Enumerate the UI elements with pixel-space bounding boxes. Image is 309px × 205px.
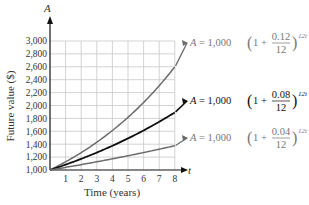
eq-exponent: 12t (298, 90, 308, 98)
paren-open: ( (247, 34, 252, 52)
x-tick-label: 6 (141, 174, 146, 184)
x-tick-label: 7 (157, 174, 162, 184)
x-tick-label: 3 (94, 174, 99, 184)
y-tick-label: 1,000 (26, 165, 48, 175)
x-axis-arrow-icon (181, 167, 188, 173)
eq-lhs: A = 1,000 (189, 37, 231, 48)
paren-open: ( (247, 92, 252, 110)
x-tick-label: 1 (63, 174, 68, 184)
y-tick-label: 2,600 (26, 62, 48, 72)
eq-one-plus: 1 + (253, 37, 267, 48)
y-axis-var: A (43, 2, 51, 14)
equation-label-0.04: A = 1,000(1 + 0.0412)12t (176, 126, 308, 150)
y-tick-labels: 1,0001,2001,4001,6001,8002,0002,2002,400… (26, 36, 48, 175)
eq-denominator: 12 (276, 139, 287, 150)
paren-close: ) (292, 92, 297, 110)
leader-line (176, 101, 187, 112)
eq-rate: 0.08 (272, 89, 290, 100)
y-tick-label: 2,000 (26, 101, 48, 111)
paren-open: ( (247, 129, 252, 147)
x-tick-label: 5 (126, 174, 131, 184)
axes (47, 16, 188, 173)
y-tick-label: 1,600 (26, 127, 48, 137)
paren-close: ) (292, 34, 297, 52)
y-tick-label: 1,200 (26, 152, 48, 162)
y-axis-arrow-icon (47, 16, 53, 24)
grid (50, 41, 175, 170)
x-tick-label: 8 (172, 174, 177, 184)
eq-lhs: A = 1,000 (189, 132, 231, 143)
paren-close: ) (292, 129, 297, 147)
y-tick-label: 1,400 (26, 140, 48, 150)
y-tick-label: 2,800 (26, 49, 48, 59)
eq-rate: 0.04 (272, 126, 291, 137)
x-tick-labels: 12345678 (63, 174, 177, 184)
equation-label-0.12: A = 1,000(1 + 0.1212)12t (176, 31, 308, 66)
equation-label-0.08: A = 1,000(1 + 0.0812)12t (176, 89, 308, 113)
leader-arrow-icon (182, 40, 188, 46)
y-tick-label: 2,400 (26, 75, 48, 85)
future-value-chart: 1,0001,2001,4001,6001,8002,0002,2002,400… (0, 0, 309, 205)
leader-line (176, 43, 187, 66)
y-tick-label: 2,200 (26, 88, 48, 98)
x-tick-label: 4 (110, 174, 115, 184)
equation-labels: A = 1,000(1 + 0.1212)12tA = 1,000(1 + 0.… (176, 31, 308, 150)
eq-one-plus: 1 + (253, 95, 267, 106)
x-axis-label: Time (years) (84, 186, 140, 199)
eq-exponent: 12t (298, 127, 308, 135)
eq-lhs: A = 1,000 (189, 95, 231, 106)
y-tick-label: 3,000 (26, 36, 48, 46)
y-tick-label: 1,800 (26, 114, 48, 124)
eq-exponent: 12t (298, 32, 308, 40)
eq-denominator: 12 (276, 102, 287, 113)
x-axis-var: t (188, 164, 192, 176)
x-tick-label: 2 (79, 174, 84, 184)
y-axis-label: Future value ($) (4, 70, 17, 141)
eq-rate: 0.12 (272, 31, 290, 42)
eq-denominator: 12 (276, 44, 287, 55)
eq-one-plus: 1 + (253, 132, 267, 143)
